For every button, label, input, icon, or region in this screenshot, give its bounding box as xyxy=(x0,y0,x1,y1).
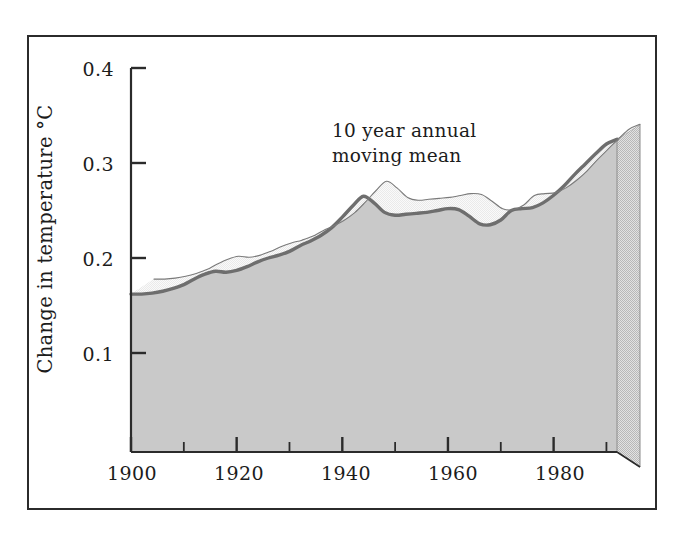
area-side-face-3d xyxy=(617,124,640,467)
chart-figure: Change in temperature °C 0.4 0.3 0.2 0.1… xyxy=(0,0,696,536)
plot-area xyxy=(0,0,696,536)
area-fill-series xyxy=(131,139,617,452)
